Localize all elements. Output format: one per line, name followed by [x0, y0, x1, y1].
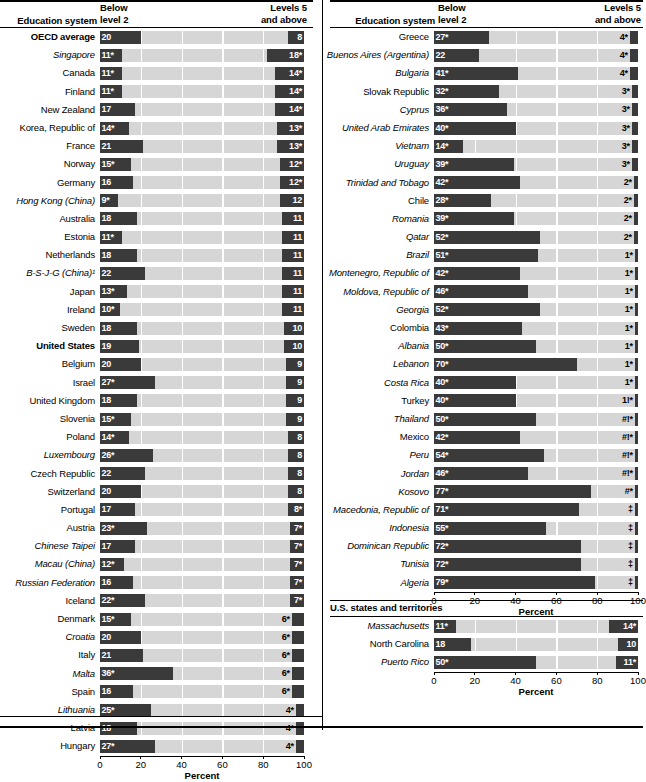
track-gridline [182, 303, 183, 316]
track-gridline [556, 656, 557, 669]
bar-levels-5-above [635, 285, 638, 298]
bar-value-below: 23* [102, 522, 115, 535]
row-label: Macedonia, Republic of [199, 501, 429, 519]
track-gridline [556, 231, 557, 244]
bar-levels-5-above [292, 685, 304, 698]
bar-value-below: 17 [102, 103, 112, 116]
row-label: Denmark [0, 610, 95, 628]
row-label: Moldova, Republic of [199, 283, 429, 301]
row-bar-track: 184* [100, 722, 304, 735]
track-gridline [141, 231, 142, 244]
track-gridline [263, 740, 264, 753]
track-gridline [182, 122, 183, 135]
row-label: Netherlands [0, 246, 95, 264]
bar-levels-5-above [296, 740, 304, 753]
track-gridline [182, 67, 183, 80]
bar-levels-5-above [296, 722, 304, 735]
row-bar-track: 52*1* [434, 303, 638, 316]
bar-levels-5-above [630, 67, 638, 80]
bar-value-levels5: ‡ [628, 540, 633, 553]
row-bar-track: 46*#!* [434, 467, 638, 480]
bar-levels-5-above [635, 522, 638, 535]
bar-value-levels5: 2* [624, 212, 632, 225]
row-label: Brazil [199, 246, 429, 264]
bar-value-below: 16 [102, 576, 112, 589]
bar-value-below: 42* [436, 176, 449, 189]
bar-levels-5-above [634, 212, 638, 225]
track-gridline [182, 558, 183, 571]
track-gridline [556, 194, 557, 207]
bar-value-levels5: #!* [622, 431, 633, 444]
bar-value-below: 21 [102, 140, 112, 153]
track-gridline [516, 376, 517, 389]
track-gridline [141, 194, 142, 207]
row-label: OECD average [0, 28, 95, 46]
bar-levels-5-above [632, 122, 638, 135]
bar-levels-5-above [634, 231, 638, 244]
row-label: United States [0, 337, 95, 355]
row-label: Massachusetts [199, 617, 429, 635]
row-bar-track: 42*2* [434, 176, 638, 189]
bar-value-levels5: 6* [282, 685, 290, 698]
track-gridline [516, 122, 517, 135]
track-gridline [141, 122, 142, 135]
row-label: Estonia [0, 228, 95, 246]
row-label: Mexico [199, 428, 429, 446]
axis-line [100, 756, 304, 757]
bar-value-below: 77* [436, 485, 449, 498]
row-label: Indonesia [199, 519, 429, 537]
track-gridline [222, 722, 223, 735]
track-gridline [182, 85, 183, 98]
bar-value-below: 32* [436, 85, 449, 98]
axis-tick-label: 100 [296, 759, 312, 770]
track-gridline [597, 249, 598, 262]
row-bar-track: 28*2* [434, 194, 638, 207]
track-gridline [263, 722, 264, 735]
track-gridline [516, 394, 517, 407]
row-label: Slovenia [0, 410, 95, 428]
track-gridline [182, 231, 183, 244]
bar-below-level-2 [434, 522, 546, 535]
track-gridline [182, 322, 183, 335]
bar-levels-5-above [635, 449, 638, 462]
bar-value-below: 71* [436, 503, 449, 516]
bar-value-levels5: 1* [625, 358, 633, 371]
bar-value-levels5: 3* [622, 85, 630, 98]
chart-row: Trinidad and Tobago42*2* [330, 174, 643, 192]
bar-below-level-2 [434, 656, 536, 669]
track-gridline [597, 103, 598, 116]
chart-row: Kosovo77*#* [330, 483, 643, 501]
track-gridline [182, 212, 183, 225]
chart-row: Georgia52*1* [330, 301, 643, 319]
bar-below-level-2 [434, 413, 536, 426]
bar-levels-5-above [635, 413, 638, 426]
bar-levels-5-above [635, 340, 638, 353]
bar-levels-5-above [634, 194, 638, 207]
chart-row: Colombia43*1* [330, 319, 643, 337]
row-label: Thailand [199, 410, 429, 428]
track-gridline [182, 194, 183, 207]
row-label: Colombia [199, 319, 429, 337]
chart-row: Cyprus36*3* [330, 101, 643, 119]
track-gridline [182, 522, 183, 535]
us-states-heading: U.S. states and territories [330, 602, 442, 613]
row-label: Japan [0, 283, 95, 301]
bar-value-below: 17 [102, 540, 112, 553]
bar-value-below: 22 [436, 49, 446, 62]
bar-value-below: 18 [102, 212, 112, 225]
track-gridline [597, 158, 598, 171]
axis-tick-label: 20 [136, 759, 147, 770]
row-label: Belgium [0, 355, 95, 373]
axis-tick-label: 20 [470, 675, 481, 686]
bar-value-below: 28* [436, 194, 449, 207]
bar-below-level-2 [434, 358, 577, 371]
bar-value-below: 18 [102, 249, 112, 262]
row-bar-track: 36*3* [434, 103, 638, 116]
bar-levels-5-above [634, 176, 638, 189]
track-gridline [141, 558, 142, 571]
track-gridline [516, 31, 517, 44]
row-label: Malta [0, 665, 95, 683]
bar-value-below: 39* [436, 158, 449, 171]
track-gridline [182, 685, 183, 698]
row-label: Australia [0, 210, 95, 228]
